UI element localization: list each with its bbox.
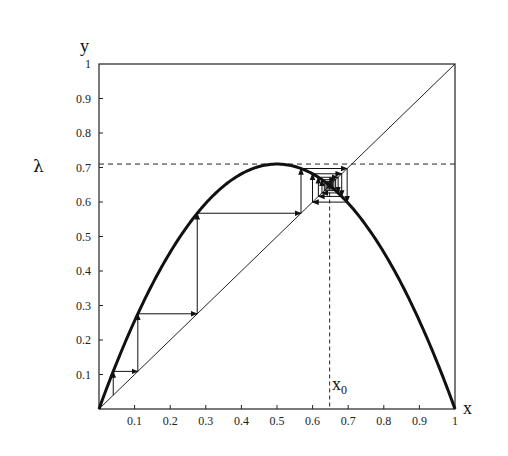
y-tick-label: 1 xyxy=(85,57,91,71)
x-tick-label: 0.5 xyxy=(270,414,285,428)
x-axis-label: x xyxy=(463,398,472,418)
axis-ticks: 0.10.20.30.40.50.60.70.80.910.10.20.30.4… xyxy=(76,57,458,428)
y-tick-label: 0.4 xyxy=(76,264,91,278)
x-tick-label: 0.6 xyxy=(305,414,320,428)
x-tick-label: 0.1 xyxy=(127,414,142,428)
y-tick-label: 0.5 xyxy=(76,230,91,244)
y-tick-label: 0.9 xyxy=(76,92,91,106)
x0-label: x0 xyxy=(332,374,347,397)
x-tick-label: 0.9 xyxy=(412,414,427,428)
parabola-curve xyxy=(99,164,455,409)
x-tick-label: 0.7 xyxy=(341,414,356,428)
x-tick-label: 0.2 xyxy=(163,414,178,428)
y-tick-label: 0.3 xyxy=(76,299,91,313)
diagonal-line xyxy=(99,64,455,409)
y-tick-label: 0.6 xyxy=(76,195,91,209)
y-axis-label: y xyxy=(80,36,89,56)
x-tick-label: 0.3 xyxy=(198,414,213,428)
x-tick-label: 0.8 xyxy=(376,414,391,428)
y-tick-label: 0.7 xyxy=(76,161,91,175)
y-tick-label: 0.2 xyxy=(76,333,91,347)
cobweb-chart: 0.10.20.30.40.50.60.70.80.910.10.20.30.4… xyxy=(0,0,508,456)
x-tick-label: 1 xyxy=(452,414,458,428)
y-tick-label: 0.8 xyxy=(76,126,91,140)
x-tick-label: 0.4 xyxy=(234,414,249,428)
lambda-label: λ xyxy=(33,156,44,176)
y-tick-label: 0.1 xyxy=(76,368,91,382)
